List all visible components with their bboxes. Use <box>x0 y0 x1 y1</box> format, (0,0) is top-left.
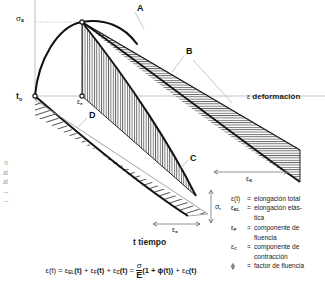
formula-eq2: = <box>130 266 134 275</box>
label-sigma-a: σa <box>16 15 24 24</box>
formula-term1: εEL(t) <box>65 266 82 275</box>
eps-k-subscript: K <box>249 178 252 183</box>
legend-item: εC = componente de <box>231 242 325 252</box>
formula-term2-arg: (t) <box>97 266 105 275</box>
t-o-subscript: o <box>19 96 22 102</box>
callout-C: C <box>190 153 197 163</box>
caption-line: al <box>0 168 8 178</box>
caption-line: al <box>0 177 8 187</box>
label-sigma-r: σr <box>215 203 221 212</box>
formula-plus1: + <box>84 266 88 275</box>
legend-equals: = <box>247 203 254 213</box>
formula-term1-arg: (t) <box>74 266 82 275</box>
axis-label-strain: ε deformación <box>247 93 300 101</box>
left-clipped-caption: n al al – – <box>0 158 8 206</box>
formula-term3: εC(t) <box>113 266 127 275</box>
legend-text: componente de <box>254 242 325 252</box>
callout-D: D <box>89 110 96 120</box>
label-eps-e: εe <box>77 98 83 107</box>
construction-guides <box>35 22 82 96</box>
formula-plus2: + <box>106 266 110 275</box>
legend-text: elongación total <box>254 194 325 203</box>
legend-text-continued: contracción <box>231 252 325 261</box>
axis-label-time-text: tiempo <box>138 237 166 247</box>
shrinkage-wedge-end-edge <box>188 214 208 216</box>
formula-lhs: ε(t) <box>46 266 57 275</box>
leader-D <box>77 118 87 128</box>
sigma-r-subscript: r <box>219 206 221 211</box>
legend-symbol: εC <box>231 242 247 252</box>
leader-A <box>135 12 144 29</box>
caption-line: – <box>0 187 8 197</box>
formula-term4: εC(t) <box>182 266 196 275</box>
legend-equals: = <box>247 194 254 203</box>
formula-term2: εF(t) <box>91 266 105 275</box>
legend-item: ε(t) = elongación total <box>231 194 325 203</box>
legend-item: εEL = elongación elás- <box>231 203 325 213</box>
legend-symbol: εEL <box>231 203 247 213</box>
formula-eq1: = <box>58 266 62 275</box>
callout-B: B <box>186 46 193 56</box>
legend-text: elongación elás- <box>254 203 325 213</box>
legend-text-continued: tica <box>231 213 325 222</box>
caption-line: – <box>0 196 8 206</box>
legend: ε(t) = elongación total εEL = elongación… <box>231 194 325 271</box>
legend-text: factor de fluencia <box>254 261 325 270</box>
legend-symbol: ε(t) <box>231 194 247 203</box>
caption-line: n <box>0 158 8 168</box>
legend-text: componente de <box>254 223 325 233</box>
formula-plus3: + <box>175 266 179 275</box>
legend-symbol: εF <box>231 223 247 233</box>
legend-symbol: ϕ <box>231 261 247 270</box>
eps-a-subscript: a <box>175 229 177 234</box>
eps-e-subscript: e <box>80 101 82 106</box>
legend-subscript: EL <box>234 208 239 213</box>
axis-label-strain-text: deformación <box>252 92 300 101</box>
axis-label-time: t tiempo <box>133 238 166 247</box>
legend-text-continued: fluencia <box>231 233 325 242</box>
legend-subscript: C <box>234 246 237 251</box>
label-t-o: to <box>16 92 22 102</box>
leader-B <box>172 56 184 72</box>
label-eps-a: εa <box>172 226 178 235</box>
t-symbol: t <box>133 237 136 247</box>
formula-paren: (1 + ϕ(t)) <box>142 266 173 275</box>
formula: ε(t) = εEL(t) + εF(t) + εC(t) = σ E (1 +… <box>28 262 214 280</box>
eps-symbol: ε <box>247 93 250 100</box>
legend-item: ϕ = factor de fluencia <box>231 261 325 270</box>
legend-subscript: F <box>234 227 237 232</box>
callout-A: A <box>137 3 144 13</box>
node-markers <box>33 20 84 98</box>
formula-term3-arg: (t) <box>120 266 128 275</box>
legend-equals: = <box>247 242 254 252</box>
legend-equals: = <box>247 223 254 233</box>
formula-term4-arg: (t) <box>189 266 197 275</box>
label-eps-k: εK <box>246 175 252 184</box>
legend-item: εF = componente de <box>231 223 325 233</box>
sigma-a-subscript: a <box>21 18 24 23</box>
legend-equals: = <box>247 261 254 270</box>
